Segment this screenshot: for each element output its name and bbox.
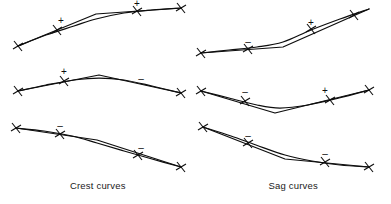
- tangent-line-sag-3: [203, 127, 369, 167]
- grade-sign: –: [138, 142, 144, 153]
- tangent-line-sag-2: [201, 90, 369, 113]
- grade-sign: +: [58, 15, 64, 26]
- curves-diagram: +++––––+–+––: [0, 0, 391, 204]
- tangent-line-crest-3: [16, 128, 181, 167]
- panel-crest-1: ++: [13, 0, 186, 51]
- caption-row: Crest curves Sag curves: [0, 176, 391, 196]
- caption-crest-curves: Crest curves: [0, 176, 196, 196]
- vertical-curve-crest-3: [16, 128, 181, 167]
- grade-sign: –: [245, 36, 251, 47]
- tangent-line-sag-1: [201, 9, 369, 53]
- panel-crest-3: ––: [11, 120, 186, 172]
- grade-sign: –: [322, 148, 328, 159]
- tick-marks-crest-1: [13, 3, 186, 51]
- vertical-curve-crest-2: [18, 78, 181, 93]
- panel-crest-2: +–: [13, 66, 186, 98]
- tangent-line-crest-1: [18, 8, 181, 46]
- panel-sag-2: –+: [196, 85, 374, 113]
- panel-sag-3: ––: [198, 122, 374, 172]
- vertical-curves-figure: +++––––+–+–– Crest curves Sag curves: [0, 0, 391, 204]
- grade-sign: +: [134, 0, 140, 9]
- caption-sag-curves: Sag curves: [196, 176, 391, 196]
- grade-sign: –: [138, 73, 144, 84]
- grade-sign: +: [308, 17, 314, 28]
- vertical-curve-sag-3: [203, 127, 369, 167]
- grade-sign: –: [242, 86, 248, 97]
- grade-sign: –: [245, 130, 251, 141]
- grade-sign: –: [57, 120, 63, 131]
- grade-sign: +: [322, 85, 328, 96]
- panel-sag-1: –+: [196, 9, 369, 58]
- grade-sign: +: [61, 66, 67, 77]
